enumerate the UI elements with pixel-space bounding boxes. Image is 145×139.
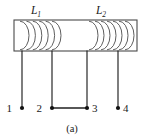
terminal-2-dot[interactable] — [50, 106, 54, 110]
terminal-1-label: 1 — [7, 102, 13, 114]
figure-caption: (a) — [66, 123, 78, 135]
terminal-3-dot[interactable] — [85, 106, 89, 110]
coil-l1-label-sub: 1 — [37, 10, 41, 19]
coil-l1-label-base: L — [30, 4, 37, 16]
terminal-2-label: 2 — [37, 102, 43, 114]
lead-wires — [22, 51, 118, 108]
circuit-diagram-svg: L1 L2 1234 (a) — [0, 0, 145, 139]
figure-container: L1 L2 1234 (a) — [0, 0, 145, 139]
coil-l2-label-base: L — [95, 4, 102, 16]
terminal-4-dot[interactable] — [116, 106, 120, 110]
terminal-4-label: 4 — [123, 102, 129, 114]
coil-l1-label: L1 — [30, 4, 41, 19]
terminal-1-dot[interactable] — [20, 106, 24, 110]
coil-l2-label-sub: 2 — [102, 10, 106, 19]
coil-l2-label: L2 — [95, 4, 106, 19]
terminal-3-label: 3 — [92, 102, 98, 114]
